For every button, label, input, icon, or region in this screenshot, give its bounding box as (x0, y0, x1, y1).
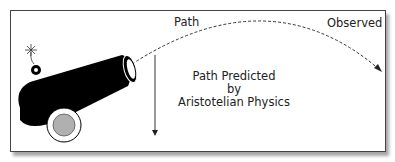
observed-path-arrowhead (374, 64, 382, 72)
observed-label: Observed (327, 17, 382, 30)
fuse-spark-icon (25, 44, 37, 64)
predicted-path-label: Path Predicted by Aristotelian Physics (164, 70, 304, 109)
cannon-wheel-hub (53, 114, 75, 136)
aristotelian-path-arrowhead (152, 130, 158, 136)
predicted-label-line3: Aristotelian Physics (164, 96, 304, 109)
path-label: Path (174, 16, 199, 29)
